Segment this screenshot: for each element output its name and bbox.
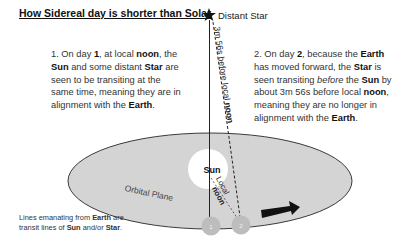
day1-explanation: 1. On day 1, at local noon, the Sun and … [51, 48, 181, 112]
day2-explanation: 2. On day 2, because the Earth has moved… [254, 48, 394, 125]
distant-star-label: Distant Star [218, 10, 268, 21]
footnote: Lines emanating from Earth are transit l… [19, 213, 139, 233]
sun-label: Sun [204, 165, 221, 175]
page-title: How Sidereal day is shorter than Solar [19, 7, 211, 19]
